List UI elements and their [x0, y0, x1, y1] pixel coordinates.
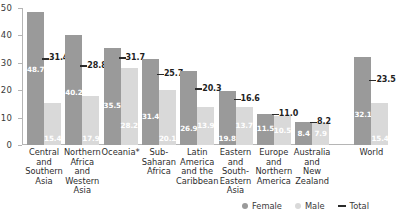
bar-value-male: 15.4 [371, 134, 388, 143]
bar-value-female: 26.9 [180, 124, 197, 133]
plot-area: 01020304050 48.715.431.440.217.928.835.5… [22, 8, 374, 145]
bar-female[interactable]: 8.4 [295, 122, 312, 145]
bar-male[interactable]: 17.9 [82, 96, 99, 145]
total-value-label: 8.2 [317, 117, 331, 126]
category-label: AustraliaandNewZealand [287, 148, 337, 186]
bar-value-female: 40.2 [65, 88, 82, 97]
bar-value-male: 15.4 [44, 134, 61, 143]
y-tick: 20 [18, 90, 22, 91]
bar-value-male: 28.2 [121, 121, 138, 130]
bar-female[interactable]: 31.4 [142, 59, 159, 145]
total-dash-icon [369, 80, 376, 82]
category-label: World [346, 148, 396, 158]
total-dash-icon [157, 74, 164, 76]
bar-group: 40.217.928.8 [65, 8, 99, 145]
category-label-line: World [346, 148, 396, 158]
total-dash-icon [42, 58, 49, 60]
bar-value-male: 13.7 [236, 121, 253, 130]
total-dash-icon [195, 88, 202, 90]
bar-male[interactable]: 13.7 [236, 107, 253, 145]
bar-female[interactable]: 40.2 [65, 35, 82, 145]
legend-item-male[interactable]: Male [295, 201, 325, 211]
y-tick-label: 40 [1, 30, 12, 40]
total-dash-icon [80, 65, 87, 67]
category-axis-labels: CentralandSouthernAsiaNorthernAfricaandW… [23, 148, 375, 198]
y-tick: 10 [18, 118, 22, 119]
legend-item-female[interactable]: Female [242, 201, 282, 211]
bar-group: 8.47.98.2 [295, 8, 329, 145]
dash-total-icon [338, 205, 346, 207]
legend-label-total: Total [350, 201, 369, 211]
bar-value-male: 13.9 [197, 121, 214, 130]
dot-female-icon [242, 203, 248, 209]
bar-group: 32.115.423.5 [354, 8, 388, 145]
bar-group: 35.528.231.7 [104, 8, 138, 145]
total-dash-icon [234, 99, 241, 101]
y-tick-label: 20 [1, 85, 12, 95]
total-dash-icon [272, 114, 279, 116]
legend-item-total[interactable]: Total [338, 201, 369, 211]
y-tick-label: 10 [1, 113, 12, 123]
bar-female[interactable]: 35.5 [104, 48, 121, 145]
category-label-line: Asia [211, 186, 261, 196]
bar-male[interactable]: 10.5 [274, 116, 291, 145]
bar-value-female: 35.5 [104, 101, 121, 110]
bar-group: 48.715.431.4 [27, 8, 61, 145]
bar-value-female: 32.1 [354, 110, 371, 119]
bar-groups: 48.715.431.440.217.928.835.528.231.731.4… [23, 8, 374, 145]
dot-male-icon [295, 203, 301, 209]
bar-female[interactable]: 11.5 [257, 114, 274, 146]
bar-male[interactable]: 15.4 [371, 103, 388, 145]
total-dash-icon [119, 57, 126, 59]
bar-value-male: 20.1 [159, 134, 176, 143]
bar-value-male: 10.5 [274, 126, 291, 135]
bar-group: 11.510.511.0 [257, 8, 291, 145]
total-value-label: 23.5 [376, 75, 395, 84]
y-tick: 0 [18, 145, 22, 146]
chart-legend: Female Male Total [242, 201, 369, 211]
bar-group: 26.913.920.3 [180, 8, 214, 145]
bar-value-male: 7.9 [312, 129, 329, 138]
y-tick: 50 [18, 8, 22, 9]
bar-female[interactable]: 32.1 [354, 57, 371, 145]
legend-label-female: Female [252, 201, 282, 211]
y-tick: 30 [18, 63, 22, 64]
category-label-line: Asia [57, 186, 107, 196]
total-dash-icon [310, 122, 317, 124]
bar-value-female: 8.4 [295, 129, 312, 138]
bar-group: 31.420.125.7 [142, 8, 176, 145]
bar-male[interactable]: 7.9 [312, 123, 329, 145]
bar-male[interactable]: 28.2 [121, 68, 138, 145]
bar-male[interactable]: 13.9 [197, 107, 214, 145]
bar-group: 19.813.716.6 [219, 8, 253, 145]
bar-value-female: 48.7 [27, 65, 44, 74]
bar-value-female: 11.5 [257, 124, 274, 133]
bar-male[interactable]: 20.1 [159, 90, 176, 145]
bar-male[interactable]: 15.4 [44, 103, 61, 145]
bar-value-female: 31.4 [142, 112, 159, 121]
category-label-line: Zealand [287, 177, 337, 187]
bar-value-female: 19.8 [219, 134, 236, 143]
legend-label-male: Male [305, 201, 325, 211]
bar-female[interactable]: 48.7 [27, 12, 44, 145]
y-tick-label: 50 [1, 3, 12, 13]
y-tick-label: 30 [1, 58, 12, 68]
bar-value-male: 17.9 [82, 134, 99, 143]
y-tick: 40 [18, 35, 22, 36]
y-tick-label: 0 [6, 140, 12, 150]
bar-female[interactable]: 26.9 [180, 71, 197, 145]
